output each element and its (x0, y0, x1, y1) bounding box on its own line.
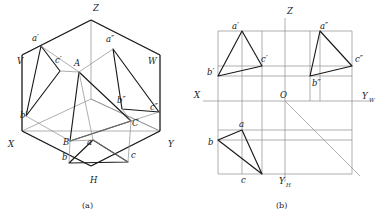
label-a-c: c (131, 150, 136, 160)
label-a-W: W (148, 56, 158, 66)
label-b-O: O (280, 90, 287, 100)
panel-b-triangle-v (218, 31, 262, 76)
label-b-c: c (241, 175, 246, 185)
label-b-YW: Y (362, 91, 369, 101)
label-b-b: b (208, 137, 213, 147)
label-b-YH-sub: H (285, 182, 291, 188)
label-b-c-prime: c′ (261, 54, 268, 64)
label-a-b: b (62, 152, 67, 162)
a-base-ac (93, 140, 128, 162)
label-a-a-dblprime: a″ (106, 34, 115, 44)
projection-figure-svg: Z X Y V W H a′ b′ c′ a″ b″ c″ A B C a b … (0, 0, 381, 217)
label-b-YW-sub: W (369, 97, 376, 103)
label-b-a: a (239, 119, 244, 129)
label-a-B: B (62, 137, 69, 147)
label-a-C: C (132, 118, 139, 128)
panel-a-ties (26, 46, 159, 163)
label-b-a-dblprime: a″ (320, 21, 329, 31)
b-mitre-45 (285, 101, 360, 176)
panel-b-grid (203, 18, 370, 182)
label-a-H: H (89, 175, 98, 185)
a-tie-cprime (60, 71, 79, 72)
label-a-a-prime: a′ (32, 33, 39, 43)
label-b-b-dblprime: b″ (312, 78, 321, 88)
label-a-X: X (7, 139, 15, 149)
label-b-a-prime: a′ (232, 21, 239, 31)
b-tri-wdbl (310, 31, 352, 76)
label-b-b-prime: b′ (207, 67, 214, 77)
label-a-Z: Z (92, 3, 100, 13)
caption-b: (b) (276, 201, 287, 210)
a-hex-tr (91, 20, 160, 55)
figure-root: Z X Y V W H a′ b′ c′ a″ b″ c″ A B C a b … (0, 0, 381, 217)
caption-a: (a) (82, 201, 93, 210)
label-a-c-dblprime: c″ (150, 102, 159, 112)
label-b-X: X (193, 90, 201, 100)
label-b-Z: Z (286, 6, 294, 16)
panel-a-group: Z X Y V W H a′ b′ c′ a″ b″ c″ A B C a b … (7, 3, 175, 185)
a-tie-adbl-A (79, 49, 113, 72)
b-tri-vprime (218, 31, 262, 76)
a-fold-x (22, 99, 91, 131)
label-a-c-prime: c′ (55, 55, 62, 65)
panel-b-group: Z X O Y W Y H a′ b′ c′ a″ b″ c″ a b c (193, 6, 376, 188)
label-b-c-dblprime: c″ (355, 54, 364, 64)
label-a-V: V (17, 56, 24, 66)
b-tri-h (218, 130, 262, 174)
label-a-Y: Y (168, 139, 175, 149)
label-a-b-prime: b′ (20, 110, 27, 120)
a-tie-bdbl (122, 109, 131, 121)
label-a-b-dblprime: b″ (117, 95, 126, 105)
label-a-A: A (73, 58, 80, 68)
label-a-a: a (87, 137, 92, 147)
a-hex-bl (22, 131, 91, 166)
panel-b-triangle-h (218, 130, 262, 174)
panel-b-triangle-w (310, 31, 352, 76)
